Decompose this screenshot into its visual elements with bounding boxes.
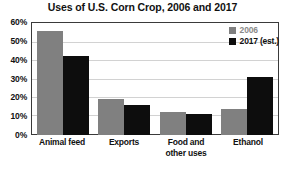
bar-group (94, 22, 156, 135)
legend-label: 2006 (240, 26, 258, 35)
legend-item-2017[interactable]: 2017 (est.) (229, 37, 279, 46)
bar-2006[interactable] (221, 109, 247, 135)
bar-2017-est[interactable] (124, 105, 150, 135)
x-label-line1: Food and (168, 137, 205, 147)
y-axis-tick-label: 60% (11, 17, 27, 27)
bar-2006[interactable] (37, 31, 63, 135)
bar-2017-est[interactable] (247, 77, 273, 135)
legend-item-2006[interactable]: 2006 (229, 26, 279, 35)
x-label-line1: Ethanol (233, 137, 263, 147)
x-axis-category-label: Food and other uses (155, 137, 217, 159)
legend-swatch-icon (229, 38, 236, 45)
y-axis-tick-label: 0% (15, 130, 27, 140)
x-axis-category-label: Animal feed (31, 137, 93, 159)
legend-swatch-icon (229, 27, 236, 34)
bar-2006[interactable] (98, 99, 124, 135)
y-axis: 60% 50% 40% 30% 20% 10% 0% (0, 22, 29, 135)
bar-2017-est[interactable] (186, 114, 212, 135)
x-label-line1: Animal feed (39, 137, 85, 147)
x-axis-labels: Animal feed Exports Food and other uses … (31, 137, 279, 159)
y-axis-tick-label: 50% (11, 36, 27, 46)
bar-group (155, 22, 217, 135)
legend: 2006 2017 (est.) (229, 26, 279, 46)
legend-label: 2017 (est.) (240, 37, 279, 46)
y-axis-tick-label: 10% (11, 111, 27, 121)
y-axis-tick-label: 40% (11, 55, 27, 65)
x-label-line2: other uses (155, 148, 217, 159)
x-label-line1: Exports (109, 137, 139, 147)
x-axis-category-label: Ethanol (217, 137, 279, 159)
bar-2017-est[interactable] (63, 56, 89, 135)
bar-chart: Uses of U.S. Corn Crop, 2006 and 2017 60… (0, 0, 285, 169)
x-axis-category-label: Exports (93, 137, 155, 159)
bar-group (32, 22, 94, 135)
y-axis-tick-label: 20% (11, 92, 27, 102)
y-axis-tick-label: 30% (11, 74, 27, 84)
chart-title: Uses of U.S. Corn Crop, 2006 and 2017 (0, 1, 285, 13)
bar-2006[interactable] (160, 112, 186, 135)
